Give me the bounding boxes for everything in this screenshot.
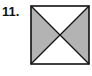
problem-number: 11. <box>2 4 19 19</box>
square-diagram <box>30 5 90 65</box>
